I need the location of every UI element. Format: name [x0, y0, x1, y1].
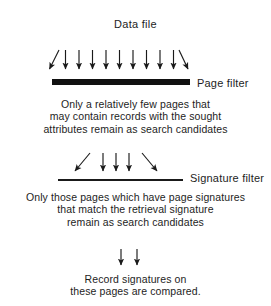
arrows-into-page-filter-icon [46, 49, 190, 76]
signature-filter-label: Signature filter [190, 172, 264, 184]
signature-filter-line [58, 179, 183, 181]
caption-page-filter-result: Only a relatively few pages that may con… [0, 98, 271, 135]
diagram-title-data-file: Data file [0, 18, 271, 30]
arrow-row-to-page-filter [46, 49, 190, 76]
arrows-into-signature-filter-icon [70, 152, 162, 178]
signature-filter-flow-diagram: Data file Page filter On [0, 0, 271, 306]
arrow-row-to-record-compare [112, 248, 148, 270]
caption-signature-filter-result: Only those pages which have page signatu… [0, 191, 271, 228]
caption-final-step: Record signatures on these pages are com… [0, 273, 271, 298]
arrows-into-record-compare-icon [112, 248, 148, 270]
arrow-row-to-signature-filter [70, 152, 162, 178]
page-filter-bar [52, 79, 190, 85]
page-filter-label: Page filter [197, 77, 249, 89]
